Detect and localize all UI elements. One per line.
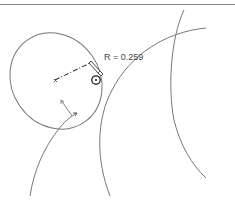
sketch-curve-bottom-left[interactable] — [30, 113, 77, 196]
sketch-curve-right[interactable] — [171, 10, 206, 178]
radius-dimension-line[interactable] — [55, 62, 92, 80]
circle-cursor-icon[interactable] — [92, 76, 100, 84]
sketch-canvas[interactable] — [0, 0, 235, 206]
radius-value-label: R = 0.259 — [104, 52, 143, 62]
direction-arrow — [61, 100, 72, 116]
